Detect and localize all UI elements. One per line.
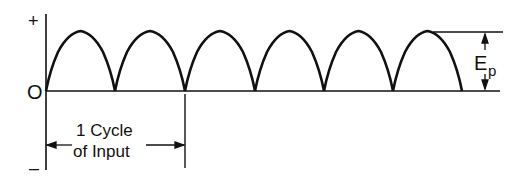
- peak-voltage-label: E: [474, 52, 487, 74]
- positive-label: +: [28, 11, 39, 31]
- waveform: [46, 31, 462, 91]
- negative-label: –: [29, 158, 39, 177]
- cycle-label-line1: 1 Cycle: [76, 121, 133, 140]
- cycle-label-line2: of Input: [73, 142, 130, 161]
- peak-voltage-subscript: p: [488, 62, 496, 79]
- rectified-waveform-diagram: E p 1 Cycle of Input + O –: [0, 0, 527, 177]
- zero-label: O: [27, 81, 43, 103]
